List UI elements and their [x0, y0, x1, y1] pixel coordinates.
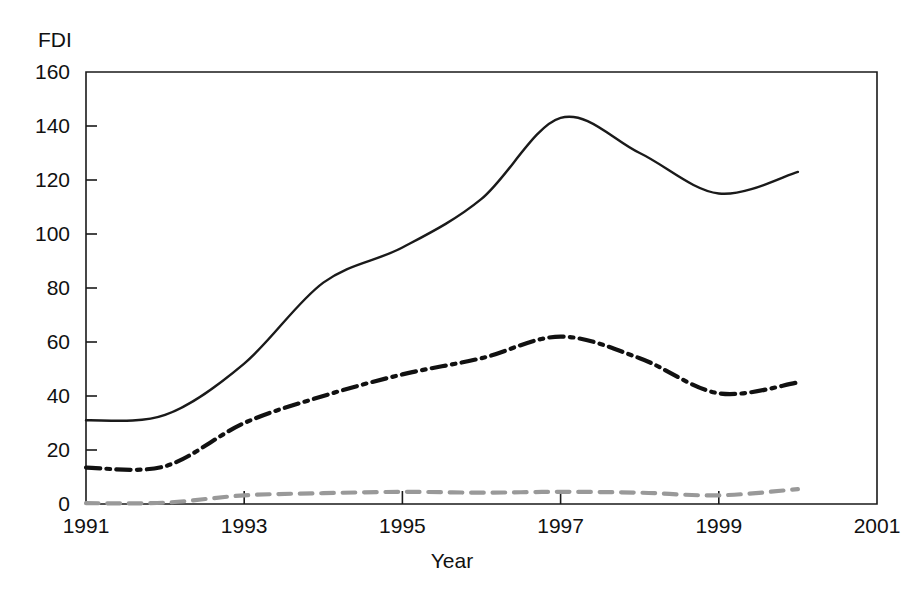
- x-tick-label: 1993: [221, 514, 268, 537]
- series-group: [86, 117, 798, 504]
- y-tick-label: 160: [35, 60, 70, 83]
- x-tick-label: 1997: [537, 514, 584, 537]
- y-tick-label: 100: [35, 222, 70, 245]
- y-tick-label: 80: [47, 276, 70, 299]
- series-line-world-total: [86, 117, 798, 421]
- y-axis-title: FDI: [38, 28, 72, 51]
- x-tick-label: 1999: [695, 514, 742, 537]
- y-tick-label: 120: [35, 168, 70, 191]
- y-tick-label: 40: [47, 384, 70, 407]
- axes-group: 020406080100120140160 199119931995199719…: [35, 60, 900, 537]
- series-line-least-developed-economies: [86, 489, 798, 503]
- chart-figure: 020406080100120140160 199119931995199719…: [0, 0, 922, 600]
- x-tick-label: 1995: [379, 514, 426, 537]
- series-line-developed-economies: [86, 337, 798, 470]
- y-tick-label: 0: [58, 492, 70, 515]
- y-tick-label: 140: [35, 114, 70, 137]
- x-tick-label: 1991: [63, 514, 110, 537]
- plot-frame: [86, 72, 877, 504]
- y-tick-label: 20: [47, 438, 70, 461]
- y-tick-label: 60: [47, 330, 70, 353]
- chart-canvas: 020406080100120140160 199119931995199719…: [0, 0, 922, 600]
- y-axis-tick-labels: 020406080100120140160: [35, 60, 70, 515]
- x-axis-title: Year: [431, 549, 473, 572]
- x-tick-label: 2001: [854, 514, 901, 537]
- y-axis-ticks: [86, 126, 97, 450]
- x-axis-tick-labels: 199119931995199719992001: [63, 514, 901, 537]
